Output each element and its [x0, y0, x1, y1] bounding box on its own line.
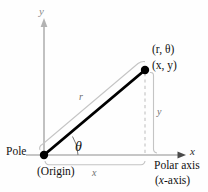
terminal-point-dot — [141, 66, 149, 74]
x-axis-arrowhead — [178, 152, 187, 159]
polar-point-label: (r, θ) — [152, 44, 174, 56]
x-leg-label: x — [92, 168, 96, 178]
x-axis-paren-var: x — [159, 174, 164, 186]
radius-brace — [40, 61, 145, 150]
origin-point-dot — [40, 151, 48, 159]
y-leg-label: y — [157, 107, 161, 117]
y-axis — [41, 18, 48, 155]
origin-label: (Origin) — [37, 166, 75, 178]
radius-ray — [44, 70, 145, 155]
y-axis-label: y — [39, 6, 44, 17]
polar-coordinate-diagram: y x Pole (Origin) Polar axis (x-axis) (r… — [0, 0, 208, 192]
radius-label: r — [79, 92, 83, 102]
rect-point-label: (x, y) — [152, 60, 177, 72]
theta-label: θ — [75, 140, 82, 154]
x-axis — [26, 152, 186, 159]
y-axis-arrowhead — [41, 18, 48, 27]
pole-label: Pole — [6, 146, 26, 158]
x-axis-paren-label: (x-axis) — [155, 175, 190, 187]
y-leg-brace — [150, 72, 157, 153]
x-axis-label: x — [190, 146, 195, 157]
polar-axis-label: Polar axis — [154, 160, 200, 172]
